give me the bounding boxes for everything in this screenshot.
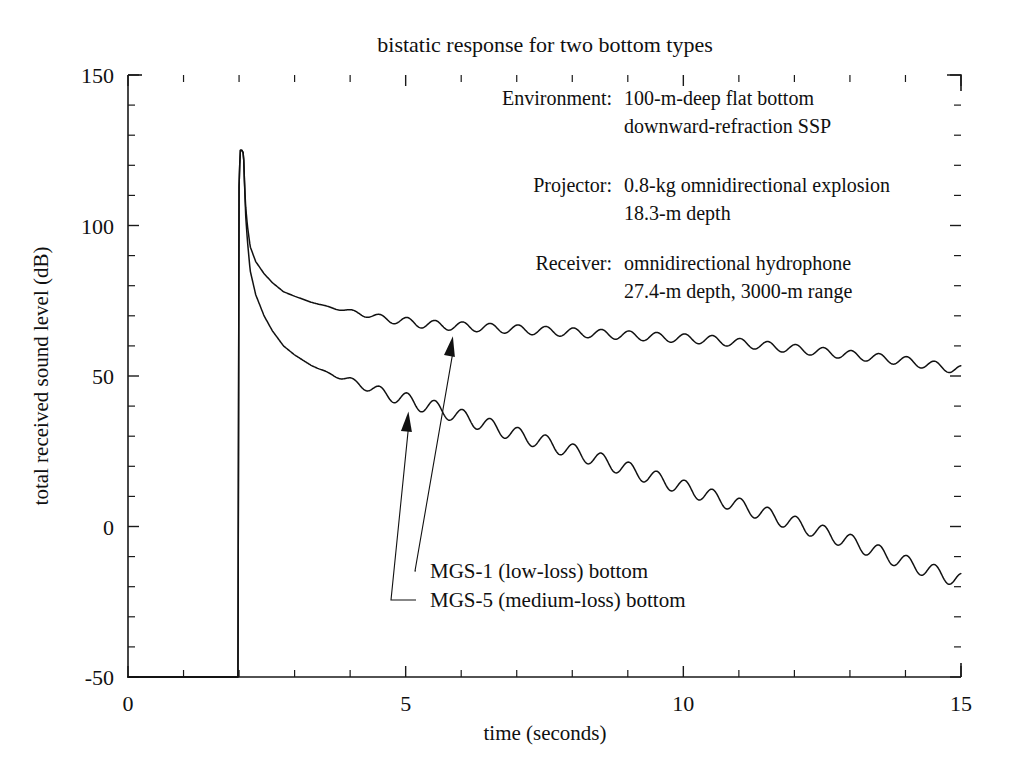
annotation-label-2: Projector:: [533, 174, 612, 197]
x-tick-label: 0: [123, 691, 134, 716]
y-tick-label: 150: [81, 63, 114, 88]
x-tick-label: 15: [950, 691, 972, 716]
annotation-label-3: Receiver:: [535, 252, 612, 274]
y-axis-title: total received sound level (dB): [29, 247, 53, 506]
annotation-value-2-2: 18.3-m depth: [624, 202, 731, 225]
x-tick-label: 10: [672, 691, 694, 716]
series-label-2: MGS-5 (medium-loss) bottom: [430, 588, 686, 612]
chart-title: bistatic response for two bottom types: [377, 32, 712, 57]
y-tick-label: 50: [92, 364, 114, 389]
x-axis-title: time (seconds): [483, 721, 606, 745]
annotation-value-2-1: 0.8-kg omnidirectional explosion: [624, 174, 890, 197]
annotation-value-1-2: downward-refraction SSP: [624, 115, 831, 137]
y-tick-label: 100: [81, 214, 114, 239]
bistatic-response-chart: bistatic response for two bottom types -…: [0, 0, 1029, 782]
annotation-label-1: Environment:: [502, 87, 612, 109]
y-tick-label: -50: [85, 665, 114, 690]
annotation-value-1-1: 100-m-deep flat bottom: [624, 87, 814, 110]
y-tick-label: 0: [103, 515, 114, 540]
annotation-value-3-2: 27.4-m depth, 3000-m range: [624, 280, 852, 303]
series-label-1: MGS-1 (low-loss) bottom: [430, 559, 648, 583]
chart-page: bistatic response for two bottom types -…: [0, 0, 1029, 782]
annotation-value-3-1: omnidirectional hydrophone: [624, 252, 851, 275]
chart-background: [0, 0, 1029, 782]
x-tick-label: 5: [400, 691, 411, 716]
